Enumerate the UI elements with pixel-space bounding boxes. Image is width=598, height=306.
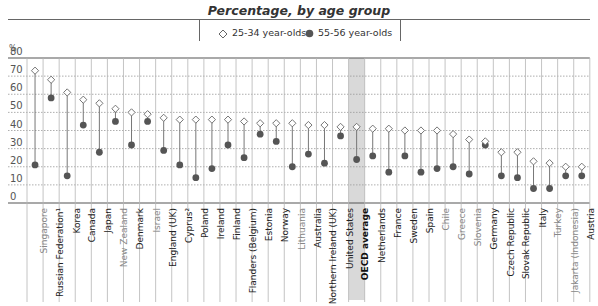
dot-55-56 <box>112 118 119 125</box>
diamond-25-34 <box>64 89 71 96</box>
diamond-25-34 <box>224 116 231 123</box>
x-axis-label: New Zealand <box>107 208 123 303</box>
diamond-25-34 <box>562 163 569 170</box>
x-axis-label: Australia <box>300 208 316 303</box>
dot-55-56 <box>578 172 585 179</box>
x-axis-label: Slovenia <box>461 208 477 303</box>
x-axis-label: Japan <box>91 208 107 303</box>
x-axis-label: Northern Ireland (UK) <box>316 208 332 303</box>
x-axis-label: Lithuania <box>284 208 300 303</box>
diamond-25-34 <box>96 100 103 107</box>
dot-55-56 <box>369 152 376 159</box>
x-axis-label: Canada <box>75 208 91 303</box>
diamond-25-34 <box>369 125 376 132</box>
x-axis-label: OECD average <box>349 208 365 303</box>
diamond-25-34 <box>546 160 553 167</box>
x-axis-label: France <box>381 208 397 303</box>
diamond-25-34 <box>401 127 408 134</box>
diamond-25-34 <box>417 127 424 134</box>
dot-55-56 <box>209 165 216 172</box>
diamond-25-34 <box>385 125 392 132</box>
x-axis-label: Korea <box>59 208 75 303</box>
diamond-25-34 <box>160 114 167 121</box>
dot-55-56 <box>241 154 248 161</box>
x-axis-label: Israel <box>140 208 156 303</box>
diamond-25-34 <box>208 116 215 123</box>
dot-55-56 <box>64 172 71 179</box>
diamond-25-34 <box>176 116 183 123</box>
dot-55-56 <box>546 185 553 192</box>
dot-55-56 <box>192 174 199 181</box>
diamond-25-34 <box>128 109 135 116</box>
dot-55-56 <box>498 172 505 179</box>
y-tick-label: 40 <box>10 119 23 130</box>
dot-55-56 <box>160 147 167 154</box>
y-tick-label: 70 <box>10 64 23 75</box>
x-axis-label-text: Austria <box>586 208 596 240</box>
dot-55-56 <box>530 185 537 192</box>
x-axis-label: Finland <box>220 208 236 303</box>
y-tick-label: 10 <box>10 173 23 184</box>
x-axis-label: United States <box>333 208 349 303</box>
diamond-25-34 <box>31 67 38 74</box>
dot-55-56 <box>80 122 87 129</box>
diamond-25-34 <box>337 123 344 130</box>
x-axis-label: Italy <box>525 208 541 303</box>
y-tick-label: 20 <box>10 155 23 166</box>
diamond-25-34 <box>289 120 296 127</box>
x-axis-label: Germany <box>477 208 493 303</box>
diamond-25-34 <box>514 149 521 156</box>
dot-55-56 <box>466 171 473 178</box>
x-axis-label: Denmark <box>123 208 139 303</box>
dot-55-56 <box>289 163 296 170</box>
x-axis-label: Spain <box>413 208 429 303</box>
x-axis-label: Ireland <box>204 208 220 303</box>
y-tick-label: 0 <box>10 191 16 202</box>
diamond-25-34 <box>578 163 585 170</box>
dot-55-56 <box>353 156 360 163</box>
dot-55-56 <box>176 162 183 169</box>
x-axis-label: Poland <box>188 208 204 303</box>
x-axis-label: Netherlands <box>365 208 381 303</box>
diamond-25-34 <box>48 76 55 83</box>
diamond-25-34 <box>257 120 264 127</box>
diamond-25-34 <box>273 120 280 127</box>
dot-55-56 <box>144 118 151 125</box>
dot-55-56 <box>273 138 280 145</box>
dot-55-56 <box>225 142 232 149</box>
diamond-25-34 <box>144 111 151 118</box>
dot-55-56 <box>257 131 264 138</box>
dot-55-56 <box>418 169 425 176</box>
x-axis-label: Sweden <box>397 208 413 303</box>
dot-55-56 <box>337 133 344 140</box>
x-axis-label: Russian Federation¹ <box>43 208 59 303</box>
diamond-25-34 <box>466 136 473 143</box>
dot-55-56 <box>562 172 569 179</box>
y-tick-label: 60 <box>10 82 23 93</box>
dot-55-56 <box>128 142 135 149</box>
y-tick-label: 50 <box>10 100 23 111</box>
dot-55-56 <box>514 174 521 181</box>
dot-55-56 <box>32 162 39 169</box>
diamond-25-34 <box>80 96 87 103</box>
y-tick-label: 30 <box>10 137 23 148</box>
diamond-25-34 <box>112 105 119 112</box>
x-axis-label: Estonia <box>252 208 268 303</box>
x-axis-label: Chile <box>429 208 445 303</box>
diamond-25-34 <box>433 127 440 134</box>
dot-55-56 <box>321 160 328 167</box>
x-axis-label: Singapore <box>27 208 43 303</box>
dot-55-56 <box>305 151 312 158</box>
diamond-25-34 <box>240 118 247 125</box>
dot-55-56 <box>450 163 457 170</box>
x-axis-label: Jakarta (Indonesia) <box>558 208 574 303</box>
diamond-25-34 <box>321 121 328 128</box>
dot-55-56 <box>434 165 441 172</box>
x-axis-label: Flanders (Belgium) <box>236 208 252 303</box>
x-axis-label: Czech Republic <box>493 208 509 303</box>
x-axis-label: Austria <box>574 208 590 303</box>
x-axis-label: Slovak Republic <box>509 208 525 303</box>
x-axis-label: Greece <box>445 208 461 303</box>
x-axis-label: Turkey <box>542 208 558 303</box>
diamond-25-34 <box>305 121 312 128</box>
